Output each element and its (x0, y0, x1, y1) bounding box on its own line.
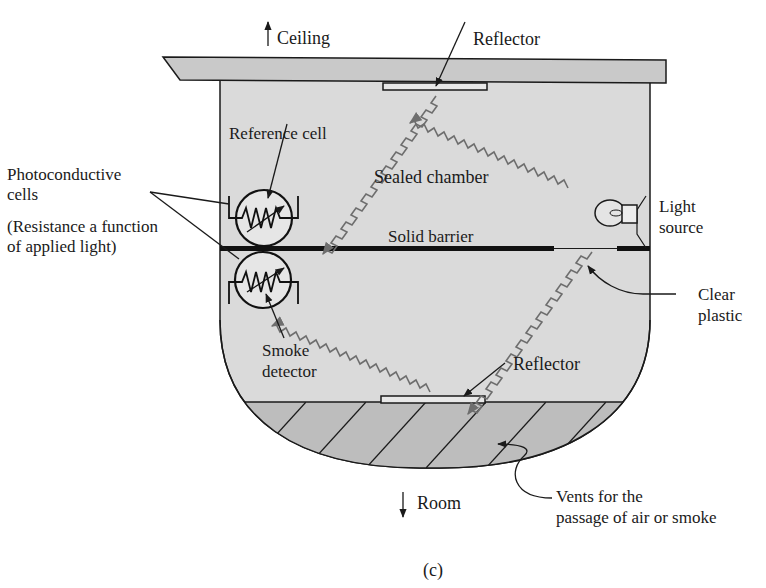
bottom-reflector (381, 396, 485, 403)
resistance-note-line2: of applied light) (7, 237, 117, 256)
smoke-detector-diagram: Ceiling Reflector Reference cell Sealed … (0, 0, 766, 588)
resistance-note-line1: (Resistance a function (7, 217, 159, 236)
vents-region (200, 402, 670, 482)
clear-plastic-label-line1: Clear (698, 285, 735, 304)
sealed-chamber-label: Sealed chamber (374, 167, 488, 187)
solid-barrier-label: Solid barrier (388, 227, 474, 246)
smoke-detector-label-line2: detector (262, 362, 317, 381)
vents-label-line2: passage of air or smoke (556, 508, 717, 527)
reflector-bottom-label: Reflector (513, 354, 580, 374)
clear-plastic-label-line2: plastic (698, 306, 743, 325)
photoconductive-label-line1: Photoconductive (7, 165, 121, 184)
ceiling-label: Ceiling (277, 28, 330, 48)
photoconductive-label-line2: cells (7, 185, 38, 204)
reflector-top-label: Reflector (473, 29, 540, 49)
light-source-label-line1: Light (659, 197, 696, 216)
reference-cell-label: Reference cell (229, 124, 327, 143)
top-reflector (383, 83, 487, 90)
vents-label-line1: Vents for the (556, 487, 643, 506)
smoke-detector-label-line1: Smoke (262, 341, 309, 360)
room-label: Room (417, 493, 461, 513)
ceiling-slab (163, 57, 666, 83)
light-source-label-line2: source (659, 218, 703, 237)
figure-caption: (c) (423, 560, 443, 581)
